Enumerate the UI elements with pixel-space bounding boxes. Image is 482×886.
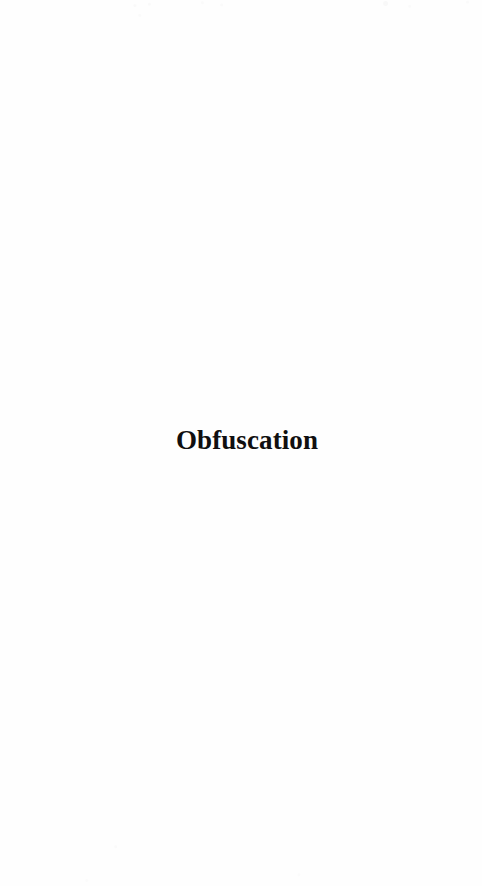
- page-title: Obfuscation: [164, 424, 318, 456]
- part-title-block: Obfuscation: [0, 424, 482, 456]
- scan-noise-top: [0, 0, 482, 70]
- scan-noise-bottom: [0, 746, 482, 886]
- scanned-page: Obfuscation: [0, 0, 482, 886]
